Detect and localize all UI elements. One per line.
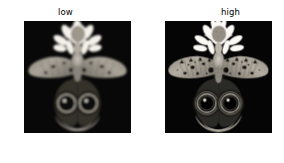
moth-image-low bbox=[24, 21, 131, 133]
axes-low: 0 50 100 150 200 250 0 100 200 bbox=[24, 21, 131, 133]
matplotlib-figure: low bbox=[0, 0, 284, 163]
subplot-high: high bbox=[142, 0, 284, 163]
subplot-title-high: high bbox=[165, 7, 284, 18]
subplot-low: low bbox=[0, 0, 142, 163]
moth-image-high bbox=[165, 21, 272, 133]
subplot-title-low: low bbox=[0, 7, 131, 18]
axes-high: 0 50 100 150 200 250 0 100 200 bbox=[165, 21, 272, 133]
